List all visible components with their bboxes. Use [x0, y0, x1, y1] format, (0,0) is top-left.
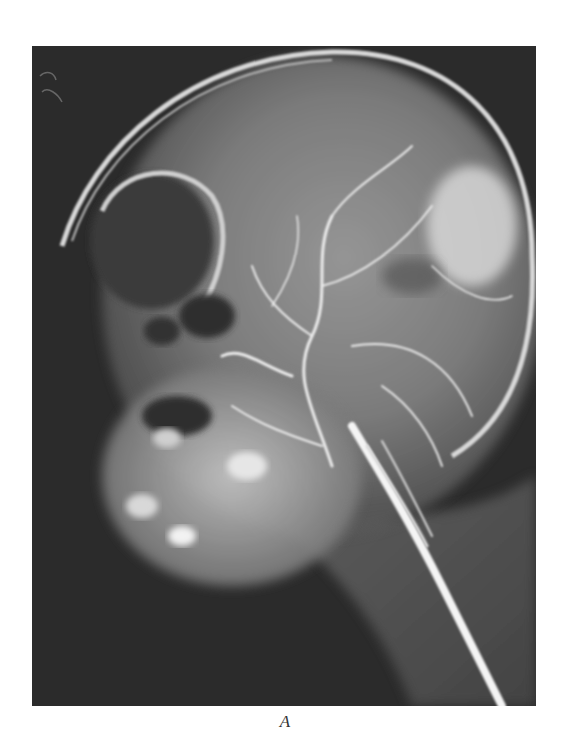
radiograph-image — [32, 46, 536, 706]
figure-caption: A — [0, 712, 570, 732]
skull-angiogram-illustration — [32, 46, 536, 706]
